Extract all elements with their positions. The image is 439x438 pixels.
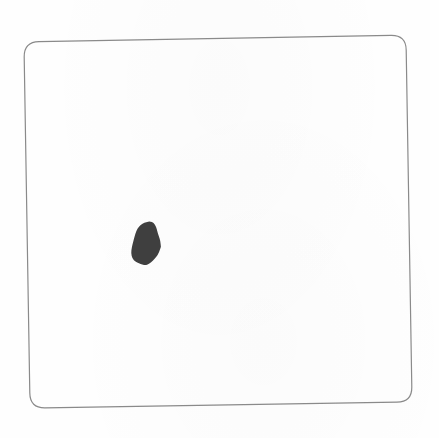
- dark-blob: [131, 222, 161, 265]
- rounded-square-outline: [24, 35, 412, 408]
- scanned-figure: [0, 0, 439, 438]
- figure-drawing: [0, 0, 439, 438]
